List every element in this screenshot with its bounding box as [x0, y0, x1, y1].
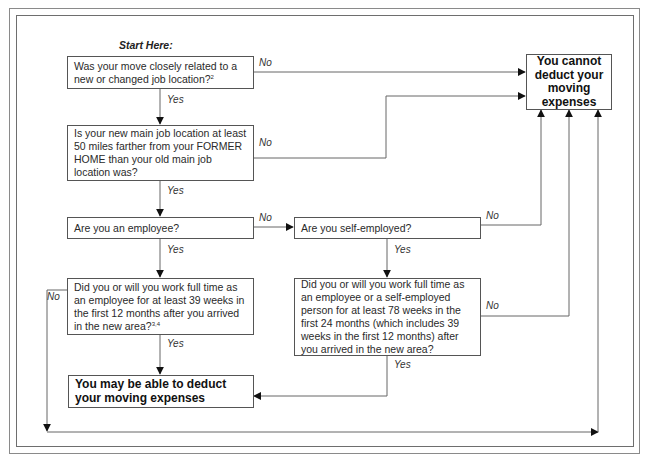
edge-label-q3-yes: Yes [167, 244, 184, 255]
edge-label-q4-no: No [486, 210, 499, 221]
question-employee-box: Are you an employee? [67, 217, 254, 239]
question-text: Are you self-employed? [301, 222, 411, 235]
result-text: You may be able to deduct your moving ex… [75, 378, 247, 405]
edge-label-q1-no: No [259, 57, 272, 68]
question-text: Did you or will you work full time as an… [74, 281, 247, 333]
edge-q2-no [253, 96, 525, 158]
edge-label-q2-yes: Yes [167, 185, 184, 196]
result-text: You cannot deduct your moving expenses [530, 55, 608, 109]
question-text: Is your new main job location at least 5… [74, 127, 247, 179]
edge-q5-no-down [47, 290, 67, 431]
edge-label-q4-yes: Yes [394, 244, 411, 255]
edge-label-q3-no: No [259, 212, 272, 223]
edge-label-q5-no: No [47, 291, 60, 302]
question-39-weeks-box: Did you or will you work full time as an… [67, 278, 254, 335]
edge-label-q2-no: No [259, 137, 272, 148]
question-text: Did you or will you work full time as an… [301, 278, 474, 356]
question-move-related-box: Was your move closely related to a new o… [67, 56, 254, 89]
edge-label-q1-yes: Yes [167, 94, 184, 105]
result-may-deduct-box: You may be able to deduct your moving ex… [68, 375, 254, 408]
edge-label-q5-yes: Yes [167, 338, 184, 349]
start-label: Start Here: [119, 39, 173, 51]
question-50-miles-box: Is your new main job location at least 5… [67, 125, 254, 181]
question-self-employed-box: Are you self-employed? [294, 217, 481, 239]
edge-q6-yes [254, 355, 387, 396]
result-cannot-deduct-box: You cannot deduct your moving expenses [526, 54, 612, 110]
edge-label-q6-yes: Yes [394, 359, 411, 370]
question-text: Are you an employee? [74, 222, 179, 235]
edge-label-q6-no: No [486, 300, 499, 311]
question-text: Was your move closely related to a new o… [74, 60, 247, 86]
question-78-weeks-box: Did you or will you work full time as an… [294, 278, 481, 356]
edge-q4-no [480, 110, 541, 225]
